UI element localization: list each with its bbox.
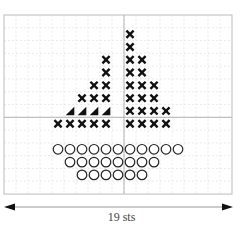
- cross-stitch-icon: [150, 120, 157, 127]
- half-stitch-triangle-icon: [66, 107, 75, 116]
- circle-stitch-icon: [65, 144, 75, 154]
- circle-stitch-icon: [77, 157, 87, 167]
- circle-stitch-icon: [53, 144, 63, 154]
- circle-stitch-icon: [89, 144, 99, 154]
- cross-stitch-icon: [150, 82, 157, 89]
- cross-stitch-icon: [138, 120, 145, 127]
- cross-stitch-icon: [90, 120, 97, 127]
- circle-stitch-icon: [77, 144, 87, 154]
- circle-stitch-icon: [101, 157, 111, 167]
- cross-stitch-icon: [78, 95, 85, 102]
- circle-stitch-icon: [89, 170, 99, 180]
- circle-stitch-icon: [161, 144, 171, 154]
- cross-stitch-icon: [138, 95, 145, 102]
- cross-stitch-icon: [126, 120, 133, 127]
- circle-stitch-icon: [137, 157, 147, 167]
- sailboat-stitch-chart: [0, 0, 243, 229]
- cross-stitch-icon: [78, 120, 85, 127]
- cross-stitch-icon: [162, 120, 169, 127]
- circle-stitch-icon: [89, 157, 99, 167]
- cross-stitch-icon: [126, 69, 133, 76]
- cross-stitch-icon: [126, 43, 133, 50]
- circle-stitch-icon: [137, 170, 147, 180]
- circle-stitch-icon: [173, 144, 183, 154]
- cross-stitch-icon: [138, 56, 145, 63]
- circle-stitch-icon: [101, 144, 111, 154]
- cross-stitch-icon: [150, 95, 157, 102]
- circle-stitch-icon: [113, 170, 123, 180]
- cross-stitch-icon: [102, 95, 109, 102]
- cross-stitch-icon: [102, 82, 109, 89]
- cross-stitch-icon: [162, 107, 169, 114]
- cross-stitch-icon: [126, 82, 133, 89]
- cross-stitch-icon: [126, 95, 133, 102]
- circle-stitch-icon: [65, 157, 75, 167]
- cross-stitch-icon: [90, 95, 97, 102]
- cross-stitch-icon: [66, 120, 73, 127]
- cross-stitch-icon: [138, 82, 145, 89]
- circle-stitch-icon: [101, 170, 111, 180]
- cross-stitch-icon: [138, 107, 145, 114]
- cross-stitch-icon: [126, 56, 133, 63]
- cross-stitch-icon: [126, 107, 133, 114]
- cross-stitch-icon: [54, 120, 61, 127]
- cross-stitch-icon: [102, 120, 109, 127]
- circle-stitch-icon: [149, 157, 159, 167]
- circle-stitch-icon: [137, 144, 147, 154]
- cross-stitch-icon: [102, 56, 109, 63]
- circle-stitch-icon: [125, 144, 135, 154]
- circle-stitch-icon: [77, 170, 87, 180]
- cross-stitch-icon: [90, 82, 97, 89]
- circle-stitch-icon: [149, 144, 159, 154]
- circle-stitch-icon: [113, 144, 123, 154]
- half-stitch-triangle-icon: [78, 107, 87, 116]
- stitch-symbols: [53, 31, 183, 180]
- cross-stitch-icon: [150, 107, 157, 114]
- circle-stitch-icon: [125, 157, 135, 167]
- cross-stitch-icon: [138, 69, 145, 76]
- width-label: 19 sts: [0, 210, 243, 225]
- half-stitch-triangle-icon: [90, 107, 99, 116]
- half-stitch-triangle-icon: [102, 107, 111, 116]
- cross-stitch-icon: [126, 31, 133, 38]
- cross-stitch-icon: [102, 69, 109, 76]
- circle-stitch-icon: [113, 157, 123, 167]
- circle-stitch-icon: [125, 170, 135, 180]
